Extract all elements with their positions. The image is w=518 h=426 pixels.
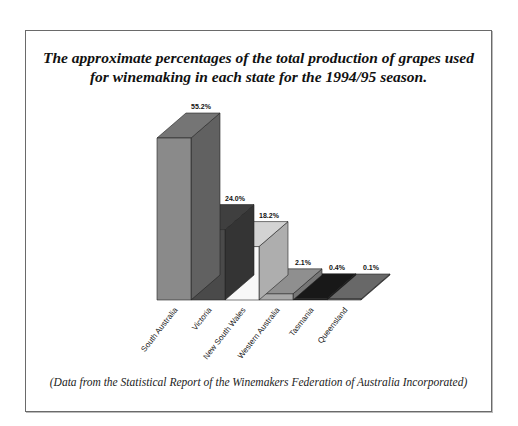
value-label: 24.0% xyxy=(225,195,246,202)
value-label: 0.1% xyxy=(363,264,380,271)
value-label: 55.2% xyxy=(191,103,212,110)
bar-chart-3d: 0.1%0.4%2.1%18.2%24.0%55.2%South Austral… xyxy=(0,0,518,426)
value-label: 18.2% xyxy=(259,212,280,219)
bar-front xyxy=(293,299,327,300)
bar: 55.2% xyxy=(157,103,220,300)
category-label: Tasmania xyxy=(287,305,316,338)
chart-footnote: (Data from the Statistical Report of the… xyxy=(25,376,492,388)
category-label: Victoria xyxy=(190,305,214,332)
category-label: South Australia xyxy=(139,305,180,353)
bar-front xyxy=(157,138,191,300)
bar-front xyxy=(327,299,361,300)
bar-side xyxy=(191,113,220,300)
value-label: 2.1% xyxy=(295,259,312,266)
category-label: Queensland xyxy=(316,306,350,346)
value-label: 0.4% xyxy=(329,264,346,271)
